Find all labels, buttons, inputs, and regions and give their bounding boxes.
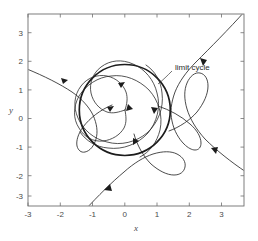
limit-cycle-leader-line	[158, 71, 172, 84]
phase-portrait-figure: -3 -2 -1 0 1 2 3 3 2 1 0 -1 -2 -3 x y	[0, 0, 258, 241]
outer-trajectory-lower-right	[169, 73, 246, 172]
outer-trajectory-lower-left	[85, 134, 185, 210]
x-tick-label: 3	[219, 210, 224, 219]
y-tick-label: 0	[19, 114, 24, 123]
arrowhead-origin-converge	[126, 104, 133, 111]
arrowhead-inner-2	[107, 106, 114, 112]
x-axis-label: x	[133, 223, 138, 233]
x-tick-label: -3	[24, 210, 32, 219]
x-tick-label: -1	[89, 210, 97, 219]
limit-cycle-label: limit cycle	[175, 63, 210, 72]
arrowhead-inner-3	[151, 107, 158, 114]
trajectory-group	[27, 10, 246, 210]
y-axis-label: y	[8, 105, 13, 115]
y-tick-label: 3	[19, 29, 24, 38]
x-tick-label: -2	[57, 210, 65, 219]
x-tick-label: 0	[123, 210, 128, 219]
x-tick-label: 1	[155, 210, 160, 219]
y-tick-label: -2	[16, 172, 24, 181]
y-tick-label: -1	[16, 143, 24, 152]
y-tick-label: 2	[19, 57, 24, 66]
plot-canvas: -3 -2 -1 0 1 2 3 3 2 1 0 -1 -2 -3 x y	[0, 0, 258, 241]
x-tick-label: 2	[187, 210, 192, 219]
y-tick-label: 1	[19, 86, 24, 95]
arrowhead-outer-left	[61, 78, 68, 84]
y-tick-label: -3	[16, 192, 24, 201]
arrowhead-outer-lower-right	[211, 147, 218, 154]
x-axis-tick-labels: -3 -2 -1 0 1 2 3	[24, 210, 224, 219]
axes-frame	[28, 14, 244, 206]
outer-trajectory-upper-right	[158, 10, 246, 150]
inner-spiral-3	[75, 76, 161, 157]
y-axis-ticks	[28, 33, 244, 196]
y-axis-tick-labels: 3 2 1 0 -1 -2 -3	[16, 29, 24, 201]
arrowhead-outer-lower-left	[104, 184, 112, 191]
